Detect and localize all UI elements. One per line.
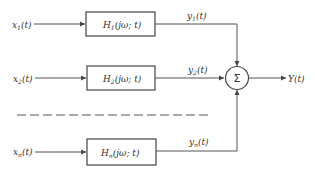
input-label-2: x2(t) (13, 74, 33, 85)
block-label-n: Hn(jω; t) (100, 148, 140, 159)
output-path-1 (155, 24, 237, 66)
output-label-n: yn(t) (188, 137, 209, 148)
input-label-1: x1(t) (12, 20, 32, 31)
output-label-2: y2(t) (187, 65, 208, 76)
channel-n: xn(t) Hn(jω; t) yn(t) (13, 90, 237, 165)
summing-junction: Σ (226, 67, 249, 90)
channel-1: x1(t) H1(jω; t) y1(t) (12, 11, 237, 66)
input-label-n: xn(t) (13, 147, 33, 158)
sigma-icon: Σ (234, 72, 241, 85)
channel-2: x2(t) H2(jω; t) y2(t) (13, 65, 224, 90)
block-label-1: H1(jω; t) (102, 20, 142, 31)
output-label-1: y1(t) (186, 11, 207, 22)
block-label-2: H2(jω; t) (102, 74, 142, 85)
block-diagram: x1(t) H1(jω; t) y1(t) x2(t) H2(jω; t) y2… (0, 0, 315, 174)
output-label: Y(t) (288, 74, 305, 84)
